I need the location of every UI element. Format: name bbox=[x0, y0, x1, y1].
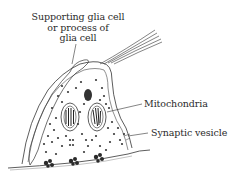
active-zones bbox=[44, 153, 104, 168]
mitochondria-label: Mitochondria bbox=[144, 99, 208, 110]
active-zone-2 bbox=[69, 157, 79, 166]
glia-label-line3: glia cell bbox=[28, 33, 128, 44]
vesicle-leader-line bbox=[128, 133, 148, 136]
mitochondrion-right bbox=[88, 103, 106, 131]
mitochondrion-left bbox=[61, 103, 79, 131]
mitochondria-leader-line bbox=[107, 104, 142, 112]
synaptic-vesicle-label: Synaptic vesicle bbox=[151, 128, 227, 139]
glia-label-line1: Supporting glia cell bbox=[28, 12, 128, 23]
synapse-diagram: Supporting glia cell or process of glia … bbox=[0, 0, 236, 185]
active-zone-1 bbox=[44, 159, 54, 168]
glia-leader-line bbox=[72, 44, 76, 64]
dense-body bbox=[84, 89, 92, 101]
glia-label: Supporting glia cell or process of glia … bbox=[28, 12, 128, 44]
